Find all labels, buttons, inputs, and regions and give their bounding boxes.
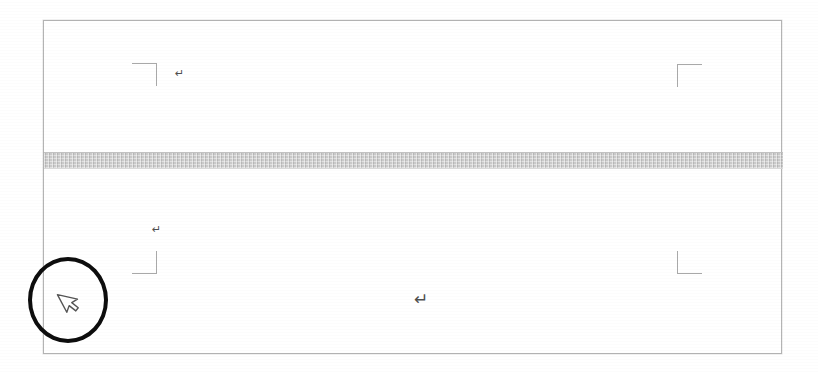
paragraph-mark-page2-first: ↵ — [152, 224, 161, 235]
margin-marker-bottom-left — [132, 251, 157, 274]
document-page[interactable]: ↵ ↵ ↵ — [43, 20, 782, 354]
paragraph-mark-page2-body: ↵ — [414, 291, 428, 308]
paragraph-mark-page1-first: ↵ — [175, 68, 184, 79]
page-break-band[interactable] — [44, 152, 783, 169]
margin-marker-top-left — [132, 63, 157, 86]
margin-marker-bottom-right — [677, 251, 702, 274]
screenshot-root: ↵ ↵ ↵ — [0, 0, 818, 372]
margin-marker-top-right — [677, 64, 702, 87]
